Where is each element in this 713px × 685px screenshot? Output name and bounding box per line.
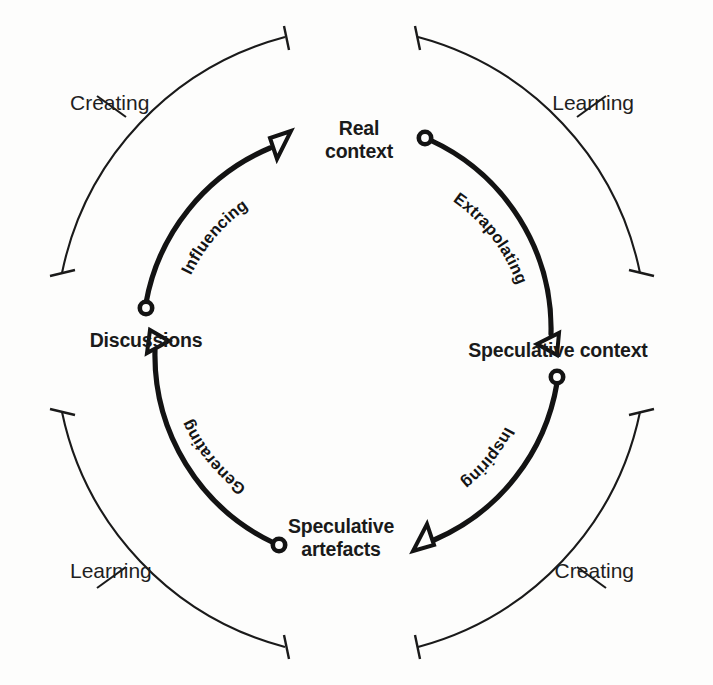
speculative-design-cycle-diagram: Creating Learning Learning Creating — [0, 0, 713, 685]
node-dot-speculative-artefacts — [273, 539, 285, 551]
cycle-diagram-canvas: Creating Learning Learning Creating — [0, 0, 713, 685]
node-label-real-context: Real context — [325, 117, 394, 162]
node-label-real-context-line1: Real — [339, 117, 379, 139]
transition-label-generating: Generating — [177, 417, 248, 499]
transition-generating — [147, 330, 285, 551]
node-dot-speculative-context — [551, 371, 563, 383]
node-label-speculative-artefacts: Speculative artefacts — [288, 515, 395, 560]
outer-label-creating-top-left: Creating — [70, 91, 149, 114]
transition-extrapolating — [419, 132, 559, 355]
node-label-speculative-artefacts-line2: artefacts — [301, 538, 381, 560]
outer-label-learning-top-right: Learning — [552, 91, 634, 114]
node-label-speculative-context: Speculative context — [468, 339, 648, 361]
node-dot-real-context — [419, 132, 431, 144]
node-label-discussions: Discussions — [90, 329, 203, 351]
outer-label-learning-bottom-left: Learning — [70, 559, 152, 582]
node-labels: Real context Speculative context Specula… — [90, 117, 649, 560]
arrow-head-inspiring — [413, 524, 434, 551]
node-label-real-context-line2: context — [325, 140, 394, 162]
node-dot-discussions — [140, 302, 152, 314]
outer-label-creating-bottom-right: Creating — [555, 559, 634, 582]
node-label-discussions-line1: Discussions — [90, 329, 203, 351]
arrow-head-influencing — [270, 131, 291, 159]
node-label-speculative-artefacts-line1: Speculative — [288, 515, 395, 537]
node-label-speculative-context-line1: Speculative context — [468, 339, 648, 361]
transition-label-extrapolating: Extrapolating — [451, 189, 532, 287]
